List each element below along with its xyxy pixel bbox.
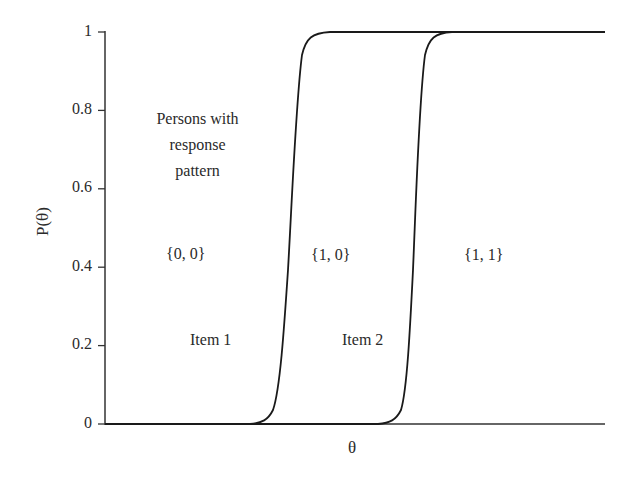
item2-curve	[105, 32, 605, 424]
y-tick-0.4: 0.4	[52, 257, 92, 275]
y-tick-0.8: 0.8	[52, 100, 92, 118]
y-ticks	[98, 32, 105, 424]
chart-canvas	[0, 0, 634, 478]
pattern-10-label: {1, 0}	[311, 246, 350, 264]
x-axis-label: θ	[348, 438, 356, 458]
pattern-11-label: {1, 1}	[464, 246, 503, 264]
heading-line-3: pattern	[140, 158, 255, 184]
y-tick-1: 1	[52, 22, 92, 40]
y-tick-0: 0	[52, 414, 92, 432]
item2-label: Item 2	[342, 331, 383, 349]
item1-curve	[105, 32, 605, 424]
y-axis-label: P(θ)	[33, 207, 53, 236]
heading-line-2: response	[140, 132, 255, 158]
pattern-00-label: {0, 0}	[166, 245, 205, 263]
heading-line-1: Persons with	[140, 106, 255, 132]
y-tick-0.6: 0.6	[52, 178, 92, 196]
y-tick-0.2: 0.2	[52, 335, 92, 353]
annotation-heading: Persons with response pattern	[140, 106, 255, 184]
item1-label: Item 1	[190, 331, 231, 349]
